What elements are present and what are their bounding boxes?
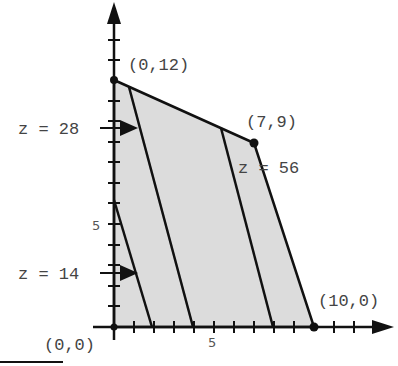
level-label-z14: z = 14 bbox=[18, 265, 79, 284]
vertex-0-0 bbox=[111, 324, 118, 331]
lp-diagram: (0,12) (7,9) (10,0) (0,0) z = 28 z = 14 … bbox=[0, 0, 398, 366]
vertex-10-0 bbox=[310, 323, 319, 332]
vertex-0-12 bbox=[110, 76, 118, 84]
y-tick-label-5: 5 bbox=[92, 218, 100, 233]
x-tick-label-5: 5 bbox=[208, 335, 216, 350]
level-label-z56: z = 56 bbox=[238, 159, 299, 178]
vertex-label-7-9: (7,9) bbox=[246, 113, 297, 132]
vertex-label-0-0: (0,0) bbox=[44, 336, 95, 355]
vertex-label-0-12: (0,12) bbox=[128, 56, 189, 75]
vertex-7-9 bbox=[250, 139, 259, 148]
vertex-label-10-0: (10,0) bbox=[318, 292, 379, 311]
y-axis-arrow-icon bbox=[107, 2, 121, 24]
x-axis-arrow-icon bbox=[372, 320, 394, 334]
level-label-z28: z = 28 bbox=[18, 120, 79, 139]
